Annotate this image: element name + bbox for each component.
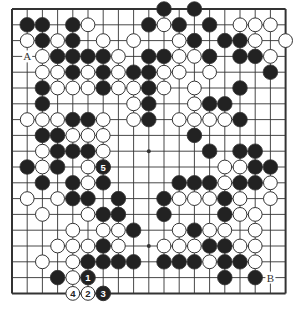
white-stone [112, 50, 126, 64]
black-stone [263, 160, 278, 175]
move-number-5: 5 [101, 162, 107, 173]
black-stone [81, 144, 96, 159]
move-number-1: 1 [85, 272, 91, 283]
black-stone [35, 81, 50, 96]
black-stone [96, 65, 111, 80]
white-stone [203, 113, 217, 127]
white-stone [81, 81, 95, 95]
white-stone [203, 192, 217, 206]
black-stone [81, 255, 96, 270]
white-stone [66, 239, 80, 253]
white-stone [36, 144, 50, 158]
white-stone [127, 97, 141, 111]
black-stone [248, 144, 263, 159]
black-stone [218, 255, 233, 270]
white-stone [218, 223, 232, 237]
black-stone [126, 65, 141, 80]
black-stone [50, 49, 65, 64]
white-stone [96, 113, 110, 127]
white-stone [203, 255, 217, 269]
white-stone [20, 113, 34, 127]
black-stone [218, 239, 233, 254]
white-stone [233, 18, 247, 32]
black-stone [142, 49, 157, 64]
white-stone [127, 113, 141, 127]
black-stone [202, 144, 217, 159]
white-stone [81, 65, 95, 79]
black-stone [111, 191, 126, 206]
white-stone [248, 208, 262, 222]
white-stone [264, 18, 278, 32]
black-stone [157, 191, 172, 206]
white-stone [248, 255, 262, 269]
white-stone [233, 192, 247, 206]
white-stone [127, 81, 141, 95]
white-stone [66, 223, 80, 237]
black-stone [111, 207, 126, 222]
black-stone [187, 2, 202, 17]
white-stone [81, 176, 95, 190]
black-stone [157, 49, 172, 64]
white-stone [112, 239, 126, 253]
black-stone [96, 176, 111, 191]
black-stone [35, 33, 50, 48]
black-stone [50, 160, 65, 175]
white-stone [172, 34, 186, 48]
white-stone [112, 65, 126, 79]
white-stone [218, 176, 232, 190]
white-stone [66, 81, 80, 95]
white-stone [248, 239, 262, 253]
white-stone [81, 208, 95, 222]
white-stone [264, 50, 278, 64]
white-stone [188, 239, 202, 253]
white-stone [172, 65, 186, 79]
white-stone [66, 255, 80, 269]
white-stone [172, 192, 186, 206]
black-stone [81, 112, 96, 127]
white-stone [264, 192, 278, 206]
white-stone [233, 239, 247, 253]
black-stone [233, 144, 248, 159]
black-stone [35, 128, 50, 143]
black-stone [218, 207, 233, 222]
black-stone [157, 255, 172, 270]
white-stone [248, 223, 262, 237]
white-stone [81, 129, 95, 143]
black-stone [233, 33, 248, 48]
white-stone [188, 50, 202, 64]
black-stone [66, 33, 81, 48]
black-stone [35, 176, 50, 191]
white-stone [51, 192, 65, 206]
white-stone [157, 81, 171, 95]
white-stone [188, 113, 202, 127]
black-stone [126, 255, 141, 270]
black-stone [233, 112, 248, 127]
white-stone [36, 208, 50, 222]
black-stone [218, 97, 233, 112]
white-stone [218, 113, 232, 127]
white-stone [203, 223, 217, 237]
point-label-a: A [23, 50, 31, 62]
white-stone [36, 255, 50, 269]
black-stone [111, 255, 126, 270]
white-stone [66, 271, 80, 285]
white-stone [188, 192, 202, 206]
black-stone [263, 65, 278, 80]
black-stone [202, 18, 217, 33]
white-stone [172, 113, 186, 127]
black-stone [66, 18, 81, 33]
white-stone [51, 65, 65, 79]
star-point [147, 149, 151, 153]
white-stone [172, 50, 186, 64]
black-stone [233, 49, 248, 64]
white-stone [264, 176, 278, 190]
white-stone [96, 144, 110, 158]
black-stone [96, 49, 111, 64]
black-stone [248, 160, 263, 175]
black-stone [218, 191, 233, 206]
white-stone [233, 208, 247, 222]
black-stone [248, 49, 263, 64]
black-stone [66, 191, 81, 206]
white-stone [36, 50, 50, 64]
black-stone [172, 18, 187, 33]
